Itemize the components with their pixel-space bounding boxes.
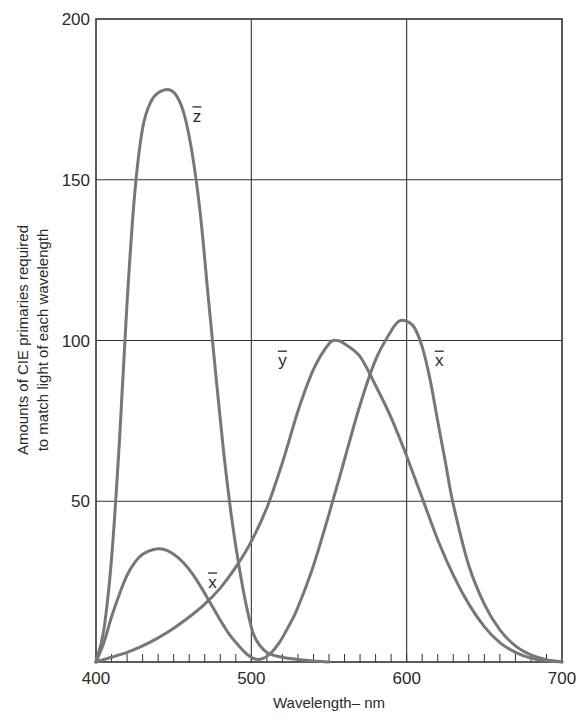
x-axis-title: Wavelength– nm <box>273 694 385 711</box>
x-tick-label: 600 <box>392 669 420 688</box>
curve-label-x-bar: x <box>208 573 217 592</box>
svg-text:x: x <box>208 573 217 592</box>
y-axis-title: Amounts of CIE primaries required to mat… <box>14 225 51 455</box>
svg-text:y: y <box>278 351 287 370</box>
svg-text:z: z <box>193 107 202 126</box>
grid-lines <box>96 19 562 662</box>
x-tick-label: 400 <box>82 669 110 688</box>
y-tick-labels: 50100150200 <box>62 10 90 511</box>
curve-x-bar <box>96 320 562 662</box>
x-tick-labels: 400500600700 <box>82 669 576 688</box>
curve-label-z-bar: z <box>192 107 201 126</box>
y-tick-label: 200 <box>62 10 90 29</box>
curve-label-x-bar: x <box>435 351 444 370</box>
curve-label-y-bar: y <box>278 351 287 370</box>
y-axis-title-line-1: Amounts of CIE primaries required <box>14 225 31 455</box>
curves <box>96 90 562 662</box>
svg-text:x: x <box>435 351 444 370</box>
x-tick-label: 500 <box>237 669 265 688</box>
x-tick-label: 700 <box>548 669 576 688</box>
cie-color-matching-chart: zyxx 400500600700 50100150200 Wavelength… <box>0 0 587 723</box>
y-tick-label: 100 <box>62 332 90 351</box>
y-axis-title-line-2: to match light of each wavelength <box>34 229 51 452</box>
y-tick-label: 50 <box>71 492 90 511</box>
y-tick-label: 150 <box>62 171 90 190</box>
